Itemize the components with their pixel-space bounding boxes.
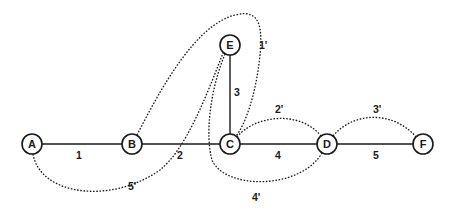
node-a-label: A bbox=[28, 138, 36, 150]
node-e-label: E bbox=[226, 39, 233, 51]
tree-edges bbox=[42, 55, 413, 144]
label-edge-1: 1 bbox=[76, 149, 82, 161]
node-a: A bbox=[22, 134, 42, 154]
node-f: F bbox=[413, 134, 433, 154]
chord-3prime-d-f bbox=[333, 117, 416, 137]
node-b-label: B bbox=[128, 138, 136, 150]
label-edge-4: 4 bbox=[275, 149, 281, 161]
edge-labels: 1 2 3 4 5 1' 2' 3' 4' 5' bbox=[76, 39, 381, 203]
label-edge-3: 3 bbox=[234, 86, 240, 98]
nodes: A B C D E F bbox=[22, 35, 433, 154]
node-f-label: F bbox=[420, 138, 427, 150]
chord-4prime-e-d bbox=[209, 54, 322, 182]
label-edge-2: 2 bbox=[177, 149, 183, 161]
chord-2prime-c-d bbox=[237, 118, 321, 137]
label-chord-2prime: 2' bbox=[275, 103, 283, 115]
label-chord-5prime: 5' bbox=[128, 180, 136, 192]
node-b: B bbox=[122, 134, 142, 154]
chord-1prime-b-c bbox=[137, 14, 261, 136]
label-chord-3prime: 3' bbox=[373, 103, 381, 115]
node-c-label: C bbox=[226, 138, 234, 150]
node-e: E bbox=[220, 35, 240, 55]
label-edge-5: 5 bbox=[373, 149, 379, 161]
label-chord-1prime: 1' bbox=[259, 39, 267, 51]
node-d-label: D bbox=[323, 138, 331, 150]
node-c: C bbox=[220, 134, 240, 154]
label-chord-4prime: 4' bbox=[252, 191, 260, 203]
chord-5prime-a-e bbox=[33, 53, 223, 191]
node-d: D bbox=[317, 134, 337, 154]
graph-diagram: 1 2 3 4 5 1' 2' 3' 4' 5' A B C D E bbox=[0, 0, 453, 211]
